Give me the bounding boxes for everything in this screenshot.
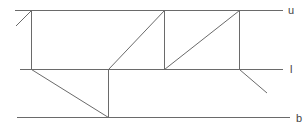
upper-level-label: u [288,4,294,16]
bottom-level-label: b [296,112,302,124]
lower-level-label: l [290,63,292,75]
level-diagram: u l b [0,0,306,128]
signal-path [16,11,267,118]
